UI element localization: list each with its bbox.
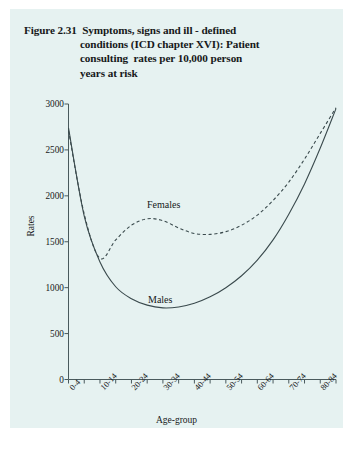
- figure-page: Figure 2.31 Symptoms, signs and ill - de…: [10, 9, 343, 428]
- x-axis-tick-labels: 0-410-1420-2430-3440-4450-5460-6470-7480…: [10, 9, 343, 428]
- x-axis-tick-label: 40-44: [193, 371, 213, 391]
- x-axis-tick-label: 70-74: [288, 371, 308, 391]
- x-axis-tick-label: 50-54: [225, 371, 245, 391]
- x-axis-tick-label: 80-84: [319, 371, 339, 391]
- series-label-males: Males: [148, 294, 172, 305]
- series-label-females: Females: [147, 199, 180, 210]
- x-axis-tick-label: 30-34: [162, 371, 182, 391]
- line-chart: 050010001500200025003000 0-410-1420-2430…: [10, 9, 343, 428]
- x-axis-tick-label: 60-64: [256, 371, 276, 391]
- x-axis-title: Age-group: [10, 415, 343, 425]
- x-axis-tick-label: 20-24: [130, 371, 150, 391]
- y-axis-title: Rates: [26, 196, 36, 256]
- x-axis-tick-label: 10-14: [99, 371, 119, 391]
- x-axis-tick-label: 0-4: [68, 377, 82, 391]
